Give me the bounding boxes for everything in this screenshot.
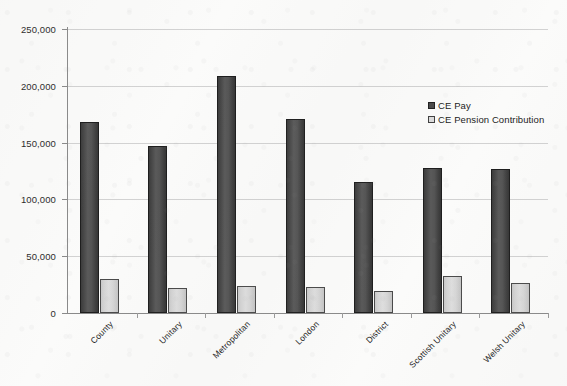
bar-ce-pension-contribution-london — [306, 287, 325, 313]
gridline — [68, 256, 548, 257]
legend-swatch-dark-square-icon — [428, 102, 435, 109]
x-tick-mark — [548, 313, 549, 318]
x-axis-line — [67, 313, 549, 314]
y-tick-mark — [62, 313, 68, 314]
legend-item-ce-pay: CE Pay — [428, 99, 544, 112]
y-tick-label: 250,000 — [21, 24, 56, 35]
y-tick-label: 100,000 — [21, 194, 56, 205]
bar-chart: 050,000100,000150,000200,000250,000 Coun… — [0, 0, 567, 386]
legend-label: CE Pay — [438, 100, 471, 111]
y-tick-label: 150,000 — [21, 137, 56, 148]
x-tick-mark — [274, 313, 275, 318]
bar-ce-pension-contribution-welsh-unitary — [511, 283, 530, 313]
bar-ce-pension-contribution-scottish-unitary — [443, 276, 462, 313]
y-tick-label: 200,000 — [21, 80, 56, 91]
category-label-unitary: Unitary — [157, 319, 184, 346]
bar-ce-pay-county — [80, 122, 99, 313]
gridline — [68, 86, 548, 87]
category-label-welsh-unitary: Welsh Unitary — [481, 319, 527, 365]
x-tick-mark — [205, 313, 206, 318]
y-tick-label: 0 — [51, 308, 56, 319]
gridline — [68, 29, 548, 30]
x-tick-mark — [137, 313, 138, 318]
bar-ce-pension-contribution-district — [374, 291, 393, 313]
category-label-metropolitan: Metropolitan — [211, 319, 252, 360]
legend-item-ce-pension-contribution: CE Pension Contribution — [428, 113, 544, 126]
category-label-district: District — [363, 319, 389, 345]
gridline — [68, 143, 548, 144]
bar-ce-pay-scottish-unitary — [423, 168, 442, 313]
category-label-county: County — [89, 319, 116, 346]
plot-area — [68, 29, 548, 313]
bar-ce-pay-welsh-unitary — [491, 169, 510, 313]
chart-legend: CE Pay CE Pension Contribution — [428, 99, 544, 127]
x-tick-mark — [479, 313, 480, 318]
category-label-london: London — [293, 319, 321, 347]
x-tick-mark — [411, 313, 412, 318]
legend-label: CE Pension Contribution — [438, 114, 544, 125]
bar-ce-pay-metropolitan — [217, 76, 236, 313]
bar-ce-pay-district — [354, 182, 373, 313]
x-tick-mark — [342, 313, 343, 318]
bar-ce-pay-unitary — [148, 146, 167, 313]
legend-swatch-light-square-icon — [428, 116, 435, 123]
bar-ce-pension-contribution-metropolitan — [237, 286, 256, 313]
y-tick-label: 50,000 — [26, 251, 56, 262]
category-label-scottish-unitary: Scottish Unitary — [407, 319, 458, 370]
bar-ce-pension-contribution-unitary — [168, 288, 187, 313]
bar-ce-pay-london — [286, 119, 305, 313]
bar-ce-pension-contribution-county — [100, 279, 119, 313]
gridline — [68, 199, 548, 200]
